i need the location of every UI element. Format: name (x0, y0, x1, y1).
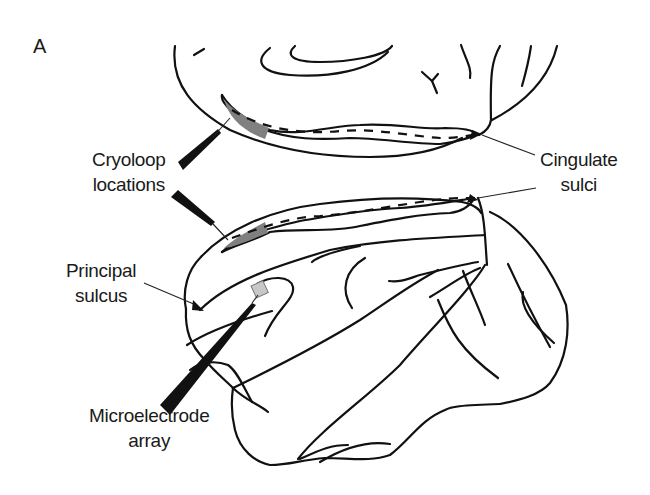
cingulate-label-line2: sulci (540, 172, 618, 197)
cingulate-label-line1: Cingulate (540, 147, 618, 172)
principal-label-line2: sulcus (66, 283, 136, 308)
principal-label-line1: Principal (66, 258, 136, 283)
microelectrode-label: Microelectrode array (89, 403, 209, 453)
panel-label: A (33, 35, 46, 58)
cryoloop-label-line1: Cryoloop (92, 147, 166, 172)
lateral-brain-view (185, 194, 568, 465)
microelectrode-array-square (251, 281, 268, 298)
microelectrode-label-line2: array (89, 428, 209, 453)
principal-sulcus-label: Principal sulcus (66, 258, 136, 308)
microelectrode-label-line1: Microelectrode (89, 403, 209, 428)
microelectrode-probe (160, 303, 256, 415)
medial-brain-view (174, 45, 557, 157)
cryoloop-probe-bottom (171, 190, 215, 226)
cingulate-label: Cingulate sulci (540, 147, 618, 197)
cryoloop-label: Cryoloop locations (92, 147, 166, 197)
cryoloop-label-line2: locations (92, 172, 166, 197)
figure-canvas: A Cryoloop locations Cingulate sulci Pri… (0, 0, 650, 495)
